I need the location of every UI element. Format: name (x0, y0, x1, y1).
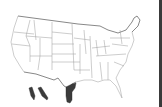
us-state-map (0, 0, 162, 107)
gulf-coast (76, 32, 134, 98)
edge-bar (159, 0, 162, 107)
map-canvas (0, 0, 162, 107)
state-boundaries (12, 20, 130, 80)
canada-border (18, 16, 140, 33)
mexico-border (24, 72, 76, 88)
shaded-baja-north (29, 87, 35, 100)
shaded-tamaulipas (66, 83, 76, 103)
shaded-baja-sur (38, 87, 48, 100)
